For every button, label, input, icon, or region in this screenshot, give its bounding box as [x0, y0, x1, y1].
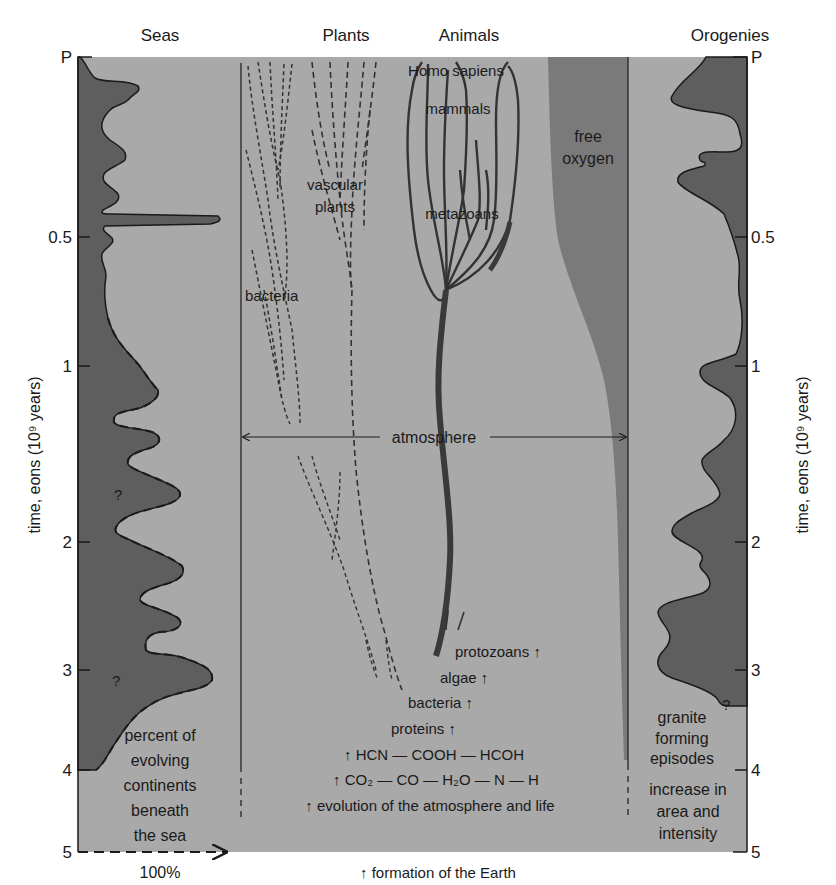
svg-text:continents: continents — [124, 777, 197, 794]
svg-text:beneath: beneath — [131, 802, 189, 819]
svg-text:2: 2 — [751, 533, 760, 552]
atmosphere-label: atmosphere — [392, 429, 477, 446]
svg-text:P: P — [61, 48, 72, 67]
right-axis-title: time, eons (10⁹ years) — [794, 376, 811, 533]
svg-text:plants: plants — [315, 198, 355, 215]
mammals-label: mammals — [425, 100, 490, 117]
protozoans-label: protozoans ↑ — [455, 643, 541, 660]
right-axis-labels: P 0.5 1 2 3 4 5 — [751, 48, 775, 862]
svg-text:5: 5 — [63, 843, 72, 862]
svg-text:forming: forming — [655, 730, 708, 747]
orogenies-question-mark: ? — [722, 696, 730, 713]
svg-text:1: 1 — [751, 357, 760, 376]
svg-text:the sea: the sea — [134, 827, 187, 844]
algae-label: algae ↑ — [440, 669, 488, 686]
seas-question-mark-2: ? — [112, 672, 120, 689]
svg-text:4: 4 — [751, 761, 760, 780]
svg-text:vascular: vascular — [307, 176, 363, 193]
header-animals: Animals — [439, 26, 499, 45]
svg-text:free: free — [574, 128, 602, 145]
svg-text:3: 3 — [751, 661, 760, 680]
svg-text:4: 4 — [63, 761, 72, 780]
svg-text:intensity: intensity — [659, 825, 718, 842]
svg-text:area and: area and — [656, 803, 719, 820]
orogenies-caption-1: granite forming episodes — [650, 709, 714, 767]
bacteria-origin-label: bacteria ↑ — [408, 694, 473, 711]
svg-text:0.5: 0.5 — [48, 228, 72, 247]
header-seas: Seas — [141, 26, 180, 45]
orogenies-caption-2: increase in area and intensity — [649, 781, 726, 842]
svg-text:increase in: increase in — [649, 781, 726, 798]
svg-text:episodes: episodes — [650, 750, 714, 767]
chemistry-line-2: ↑ CO₂ — CO — H₂O — N — H — [333, 771, 539, 788]
svg-text:1: 1 — [63, 357, 72, 376]
proteins-label: proteins ↑ — [391, 720, 456, 737]
svg-text:oxygen: oxygen — [562, 150, 614, 167]
percent-label: 100% — [140, 864, 181, 881]
left-axis-title: time, eons (10⁹ years) — [26, 376, 43, 533]
header-orogenies: Orogenies — [691, 26, 769, 45]
svg-text:5: 5 — [751, 843, 760, 862]
svg-text:evolving: evolving — [131, 752, 190, 769]
svg-text:0.5: 0.5 — [751, 228, 775, 247]
earth-history-diagram: Seas Plants Animals Orogenies ? ? percen… — [0, 0, 836, 885]
left-axis-labels: P 0.5 1 2 3 4 5 — [48, 48, 72, 862]
formation-label: ↑ formation of the Earth — [360, 864, 516, 881]
header-plants: Plants — [322, 26, 369, 45]
svg-text:granite: granite — [658, 709, 707, 726]
seas-question-mark-1: ? — [114, 486, 122, 503]
svg-text:P: P — [751, 48, 762, 67]
evolution-label: ↑ evolution of the atmosphere and life — [305, 797, 554, 814]
svg-text:3: 3 — [63, 661, 72, 680]
svg-text:percent of: percent of — [124, 727, 196, 744]
chemistry-line-1: ↑ HCN — COOH — HCOH — [344, 746, 524, 763]
svg-text:2: 2 — [63, 533, 72, 552]
metazoans-label: metazoans — [425, 205, 498, 222]
bacteria-label: bacteria — [245, 287, 299, 304]
homo-sapiens-label: Homo sapiens — [408, 62, 504, 79]
